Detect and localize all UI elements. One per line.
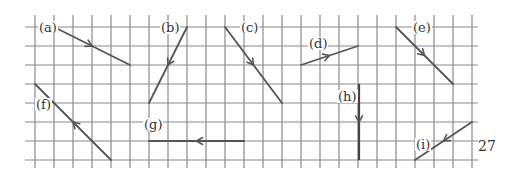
vector-label-i: (i) <box>415 138 431 151</box>
vector-label-d: (d) <box>308 37 328 50</box>
vector-label-b: (b) <box>160 21 180 34</box>
vector-label-f: (f) <box>35 98 52 111</box>
vector-g <box>149 138 244 145</box>
vector-e <box>396 27 453 84</box>
vector-label-a: (a) <box>38 21 58 34</box>
vector-label-h: (h) <box>337 90 358 103</box>
vector-label-e: (e) <box>412 21 432 34</box>
page-number: 27 <box>478 138 496 154</box>
graph-paper-grid <box>25 15 478 168</box>
vector-label-g: (g) <box>143 118 163 131</box>
vector-label-c: (c) <box>240 21 259 34</box>
vector-arrows <box>35 27 472 160</box>
